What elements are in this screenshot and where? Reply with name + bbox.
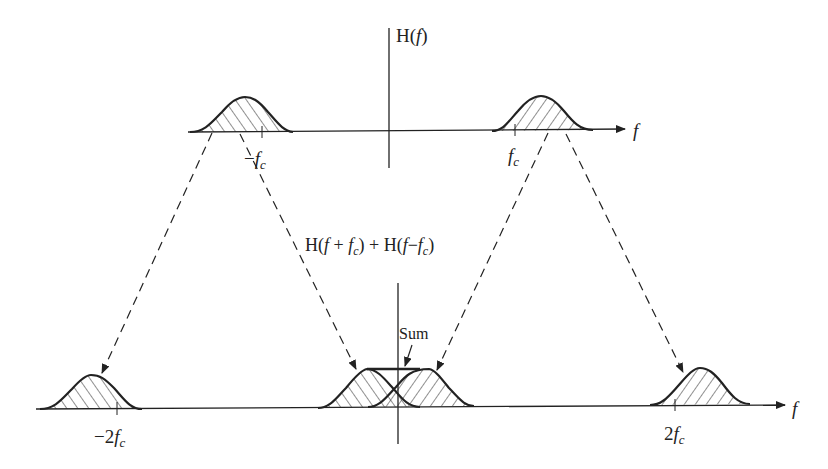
bottom-spectrum: Sum H(f + fc) + H(f−fc) f −2fc 2fc [36,235,800,450]
bottom-x-axis-label: f [792,398,800,419]
spectrum-diagram: H(f) f −fc fc Sum H(f + f [0,0,828,469]
top-y-axis-label: H(f) [396,25,428,47]
sum-label: Sum [399,325,429,342]
tick-label-fc: fc [508,145,519,169]
arrow-neg-fc-to-neg-2fc [102,133,212,373]
top-spectrum: H(f) f −fc fc [188,25,641,172]
tick-label-neg-2fc: −2fc [94,426,126,450]
sum-pointer [405,345,412,366]
arrow-fc-to-2fc [566,134,683,372]
tick-label-2fc: 2fc [664,423,685,447]
top-x-axis-label: f [633,120,641,141]
bottom-y-axis-label: H(f + fc) + H(f−fc) [305,235,434,258]
tick-label-neg-fc: −fc [244,148,266,172]
arrow-fc-to-zero [437,133,548,370]
